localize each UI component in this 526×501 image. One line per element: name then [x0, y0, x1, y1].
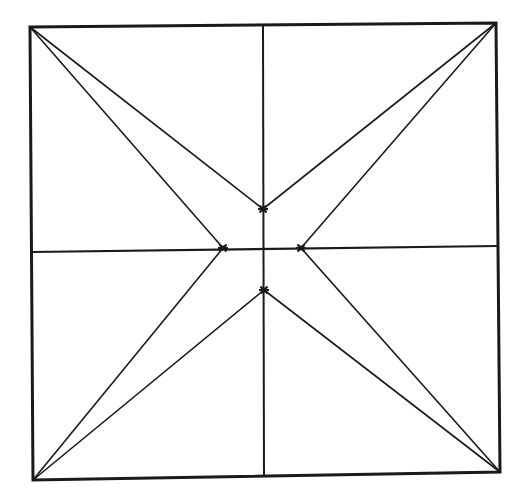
ray-top-right-to-top	[263, 23, 496, 209]
ray-top-right-to-right	[301, 23, 496, 248]
horizontal-midline	[32, 246, 498, 252]
ray-top-left-to-left	[30, 27, 223, 248]
ray-bottom-left-to-bottom	[33, 290, 264, 480]
vertical-midline	[263, 25, 264, 476]
ray-bottom-right-to-bottom	[264, 290, 500, 472]
ray-top-left-to-top	[30, 27, 263, 209]
ray-bottom-left-to-left	[33, 248, 223, 480]
point-marker-right	[296, 245, 306, 252]
ray-bottom-right-to-right	[301, 248, 500, 472]
diagram-canvas	[0, 0, 526, 501]
square-construction-diagram	[0, 0, 526, 501]
